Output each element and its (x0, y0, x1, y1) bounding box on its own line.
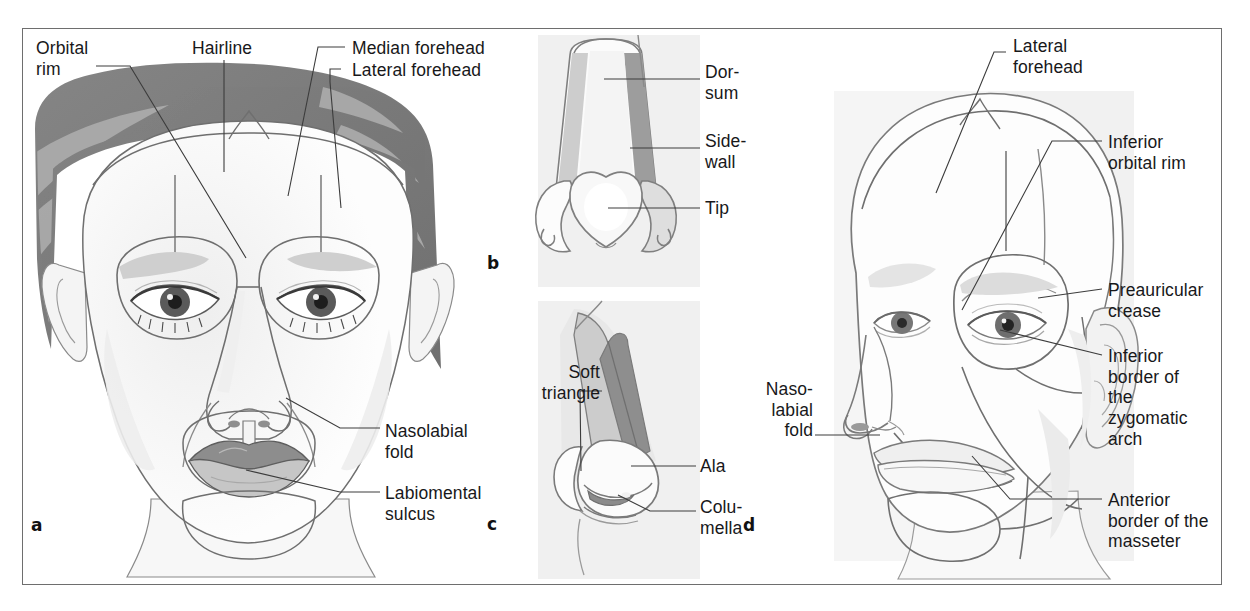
label-preauricular-crease: Preauricular crease (1108, 280, 1232, 321)
label-labiomental-sulcus: Labiomental sulcus (385, 483, 535, 524)
label-inferior-border-zygomatic-arch: Inferior border of the zygomatic arch (1108, 346, 1232, 449)
label-dorsum: Dor- sum (705, 62, 775, 103)
label-tip: Tip (705, 198, 775, 219)
label-sidewall: Side- wall (705, 131, 775, 172)
panel-letter-d: d (743, 517, 755, 534)
panel-letter-a: a (31, 517, 42, 534)
label-ala: Ala (700, 456, 760, 477)
panel-letter-b: b (487, 255, 499, 272)
label-hairline: Hairline (192, 38, 312, 59)
label-soft-triangle: Soft triangle (478, 362, 600, 403)
panel-c-nose-oblique (478, 295, 733, 584)
label-nasolabial-fold-d: Naso- labial fold (709, 379, 813, 441)
label-columella: Colu- mella (700, 497, 780, 538)
label-lateral-forehead-d: Lateral forehead (1013, 36, 1143, 77)
figure-plate: Orbital rim Hairline Median forehead Lat… (0, 0, 1250, 611)
label-orbital-rim: Orbital rim (36, 38, 156, 79)
panel-letter-c: c (487, 516, 497, 533)
label-lateral-forehead-a: Lateral forehead (352, 60, 522, 81)
label-median-forehead: Median forehead (352, 38, 522, 59)
label-anterior-border-masseter: Anterior border of the masseter (1108, 490, 1238, 552)
label-inferior-orbital-rim: Inferior orbital rim (1108, 132, 1232, 173)
panel-c-illustration (478, 295, 733, 584)
label-nasolabial-fold-a: Nasolabial fold (385, 421, 505, 462)
